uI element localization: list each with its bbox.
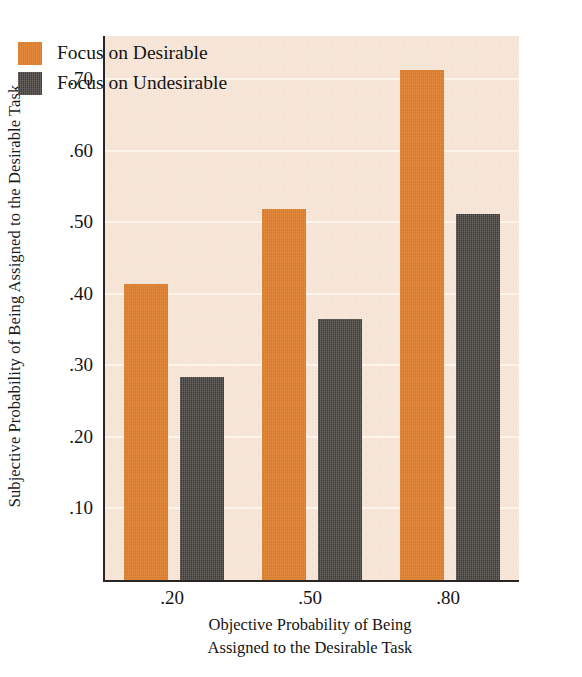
bar-desirable-50 bbox=[262, 209, 306, 580]
legend-swatch-desirable-icon bbox=[18, 42, 42, 65]
y-axis-tick-label: .60 bbox=[37, 141, 93, 160]
x-axis-title-line2: Assigned to the Desirable Task bbox=[103, 636, 517, 659]
y-axis-tick-label: .50 bbox=[37, 212, 93, 231]
legend: Focus on Desirable Focus on Undesirable bbox=[18, 38, 227, 98]
legend-label-desirable: Focus on Desirable bbox=[57, 43, 208, 63]
x-axis-tick-label: .80 bbox=[413, 588, 483, 607]
bar-undesirable-50 bbox=[318, 319, 362, 580]
gridline bbox=[105, 150, 519, 152]
bar-undesirable-20 bbox=[180, 377, 224, 580]
y-axis-tick-label: .40 bbox=[37, 284, 93, 303]
bar-desirable-20 bbox=[124, 284, 168, 580]
x-axis-title: Objective Probability of Being Assigned … bbox=[103, 613, 517, 659]
bar-undesirable-80 bbox=[456, 214, 500, 580]
bar-chart-figure: Subjective Probability of Being Assigned… bbox=[0, 0, 582, 677]
legend-item-desirable: Focus on Desirable bbox=[18, 38, 227, 68]
legend-item-undesirable: Focus on Undesirable bbox=[18, 68, 227, 98]
legend-swatch-undesirable-icon bbox=[18, 72, 42, 95]
legend-label-undesirable: Focus on Undesirable bbox=[57, 73, 227, 93]
y-axis-tick-label: .20 bbox=[37, 427, 93, 446]
x-axis-tick-label: .20 bbox=[137, 588, 207, 607]
x-axis-tick-label: .50 bbox=[275, 588, 345, 607]
y-axis-tick-label: .10 bbox=[37, 498, 93, 517]
bar-desirable-80 bbox=[400, 70, 444, 580]
x-axis-title-line1: Objective Probability of Being bbox=[103, 613, 517, 636]
y-axis-tick-label: .30 bbox=[37, 355, 93, 374]
plot-area bbox=[103, 36, 519, 582]
